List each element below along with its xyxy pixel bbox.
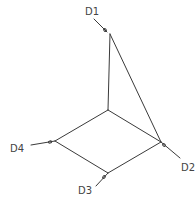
edge-bottom-right [108, 142, 161, 173]
edge-center-left [55, 110, 108, 141]
leader-d1 [94, 19, 107, 32]
label-d4: D4 [10, 144, 24, 154]
diagram-canvas [0, 0, 195, 211]
leader-d3 [96, 173, 108, 186]
edge-top-right [110, 34, 161, 142]
label-d1: D1 [85, 7, 99, 17]
leader-d2 [161, 142, 180, 158]
frame-diagram: D1 D2 D3 D4 [0, 0, 195, 211]
edge-top-center [108, 34, 110, 110]
edge-left-bottom [55, 141, 108, 173]
label-d2: D2 [181, 163, 195, 173]
label-d3: D3 [78, 186, 92, 196]
